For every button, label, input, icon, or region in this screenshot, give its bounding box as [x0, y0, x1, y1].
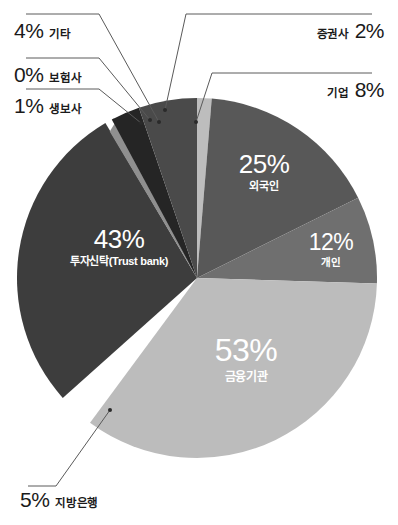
slice-name-trust: 투자신탁(Trust bank) — [70, 256, 168, 268]
callout-name-insurance: 보험사 — [49, 73, 81, 85]
leader-dot-corporate — [194, 120, 198, 124]
pie-slices — [17, 98, 377, 458]
leader-dot-local-bank — [108, 408, 112, 412]
slice-value-person: 12% — [309, 230, 354, 254]
callout-name-corporate: 기업 — [327, 88, 348, 100]
callout-value-insurance: 0% — [14, 64, 43, 85]
callout-label-securities: 증권사 2% — [317, 20, 384, 41]
leader-dot-etc — [157, 120, 161, 124]
slice-value-finance: 53% — [215, 334, 278, 368]
slice-value-foreign: 25% — [239, 151, 290, 178]
slice-label-person: 12% 개인 — [309, 230, 354, 268]
callout-value-securities: 2% — [355, 20, 384, 41]
leader-dot-insurance — [148, 118, 152, 122]
callout-value-etc: 4% — [14, 20, 43, 41]
pie-chart: 4% 기타 0% 보험사 1% 생보사 증권사 2% 기업 8% 5% 지방은행… — [0, 0, 398, 525]
callout-name-securities: 증권사 — [317, 29, 349, 41]
slice-name-person: 개인 — [309, 257, 354, 268]
callout-label-local-bank: 5% 지방은행 — [20, 489, 98, 510]
callout-value-corporate: 8% — [355, 79, 384, 100]
slice-name-finance: 금융기관 — [215, 371, 278, 384]
slice-name-foreign: 외국인 — [239, 181, 290, 193]
slice-label-foreign: 25% 외국인 — [239, 151, 290, 193]
leader-dot-securities — [163, 108, 167, 112]
callout-value-life-insurance: 1% — [14, 95, 43, 116]
callout-label-life-insurance: 1% 생보사 — [14, 95, 81, 116]
slice-label-finance: 53% 금융기관 — [215, 334, 278, 383]
callout-label-etc: 4% 기타 — [14, 20, 71, 41]
slice-label-trust: 43% 투자신탁(Trust bank) — [70, 226, 168, 268]
callout-name-local-bank: 지방은행 — [55, 498, 98, 510]
callout-label-corporate: 기업 8% — [327, 79, 384, 100]
callout-name-life-insurance: 생보사 — [49, 104, 81, 116]
callout-name-etc: 기타 — [49, 29, 70, 41]
callout-label-insurance: 0% 보험사 — [14, 64, 81, 85]
callout-value-local-bank: 5% — [20, 489, 49, 510]
slice-value-trust: 43% — [70, 226, 168, 253]
leader-dot-life-insurance — [139, 121, 143, 125]
